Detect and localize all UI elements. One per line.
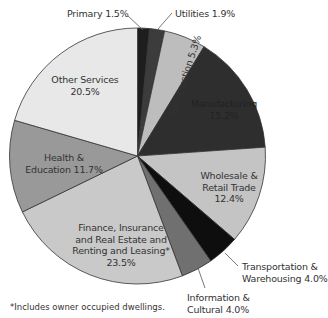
label-finance-line1: Finance, Insurance xyxy=(62,222,180,234)
label-info-line2: Cultural 4.0% xyxy=(187,304,250,316)
label-finance-line2: and Real Estate and xyxy=(62,234,180,246)
label-other-name: Other Services xyxy=(40,74,130,86)
label-info-line1: Information & xyxy=(187,292,250,304)
label-manufacturing-name: Manufacturing xyxy=(183,98,265,110)
label-wholesale-value: 12.4% xyxy=(196,193,262,205)
label-wholesale: Wholesale & Retail Trade 12.4% xyxy=(196,170,262,205)
label-utilities: Utilities 1.9% xyxy=(175,8,235,20)
label-health-line2: Education 11.7% xyxy=(16,164,112,176)
label-transport-line1: Transportation & xyxy=(242,261,328,273)
label-info: Information & Cultural 4.0% xyxy=(187,292,250,315)
label-health-line1: Health & xyxy=(16,152,112,164)
label-finance-value: 23.5% xyxy=(62,257,180,269)
leader-transport xyxy=(225,253,238,266)
label-transport: Transportation & Warehousing 4.0% xyxy=(242,261,328,284)
label-wholesale-line2: Retail Trade xyxy=(196,182,262,194)
label-other-services: Other Services 20.5% xyxy=(40,74,130,97)
label-wholesale-line1: Wholesale & xyxy=(196,170,262,182)
label-transport-line2: Warehousing 4.0% xyxy=(242,273,328,285)
label-primary: Primary 1.5% xyxy=(67,8,128,20)
label-other-value: 20.5% xyxy=(40,86,130,98)
label-finance-line3: Renting and Leasing* xyxy=(62,245,180,257)
label-finance: Finance, Insurance and Real Estate and R… xyxy=(62,222,180,268)
label-health: Health & Education 11.7% xyxy=(16,152,112,175)
leader-info xyxy=(198,268,205,288)
footnote: *Includes owner occupied dwellings. xyxy=(10,302,165,312)
leader-utilities xyxy=(158,13,172,29)
label-manufacturing: Manufacturing 15.2% xyxy=(183,98,265,121)
label-manufacturing-value: 15.2% xyxy=(183,110,265,122)
